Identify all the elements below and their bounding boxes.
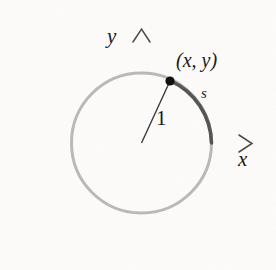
point-coordinates-label: (x, y) xyxy=(176,50,217,70)
y-axis-label: y xyxy=(107,26,116,47)
terminal-point-dot xyxy=(165,76,174,85)
unit-circle-figure: y x (x, y) s 1 xyxy=(0,0,276,270)
paper-grain xyxy=(0,0,276,270)
x-axis-label: x xyxy=(238,149,247,170)
radius-length-label: 1 xyxy=(156,108,167,129)
figure-canvas xyxy=(0,0,276,270)
arc-length-label: s xyxy=(201,86,207,101)
